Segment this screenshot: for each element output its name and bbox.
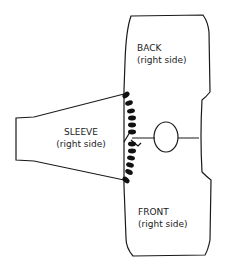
marker-circle xyxy=(154,122,178,152)
back-label: BACK (right side) xyxy=(137,42,186,66)
sweater-assembly-diagram xyxy=(0,0,231,272)
front-subtitle: (right side) xyxy=(138,218,187,230)
back-title: BACK xyxy=(137,43,161,53)
front-title: FRONT xyxy=(138,207,169,217)
sleeve-title: SLEEVE xyxy=(56,126,106,138)
sleeve-subtitle: (right side) xyxy=(56,138,106,150)
front-label: FRONT (right side) xyxy=(138,206,187,230)
back-subtitle: (right side) xyxy=(137,54,186,66)
sleeve-label: SLEEVE (right side) xyxy=(56,126,106,150)
